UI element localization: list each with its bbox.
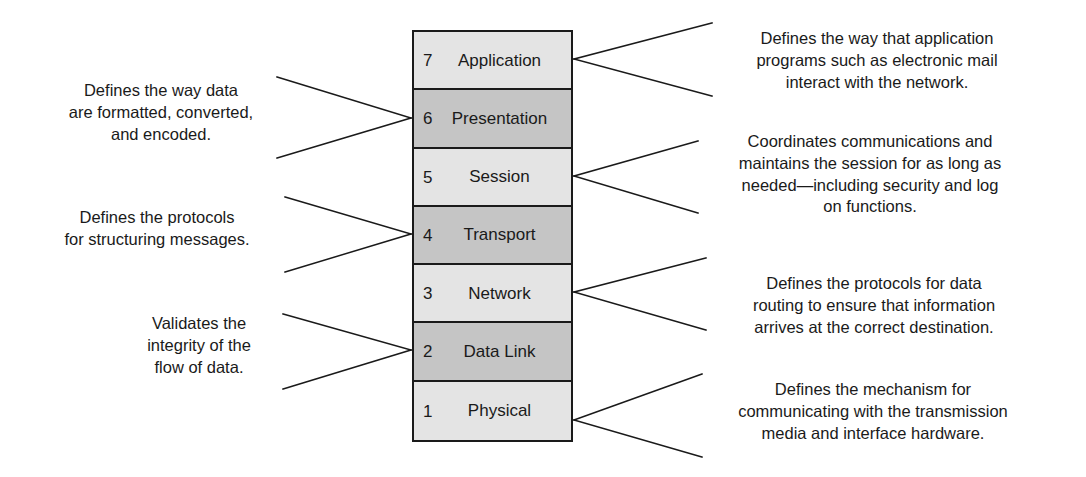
annotation-session: Coordinates communications and maintains… xyxy=(702,131,1038,218)
layer-label-transport: Transport xyxy=(414,226,571,243)
connector-right-application xyxy=(574,23,712,96)
layer-number-7: 7 xyxy=(423,52,432,69)
connector-right-session xyxy=(574,141,698,213)
layer-number-4: 4 xyxy=(423,226,432,243)
connector-right-physical xyxy=(574,374,702,457)
layer-number-1: 1 xyxy=(423,402,432,419)
annotation-transport: Defines the protocols for structuring me… xyxy=(26,207,288,251)
annotation-physical: Defines the mechanism for communicating … xyxy=(706,379,1040,444)
layer-label-application: Application xyxy=(414,52,571,69)
osi-layer-data-link[interactable]: 2 Data Link xyxy=(414,323,571,381)
osi-layer-session[interactable]: 5 Session xyxy=(414,149,571,207)
connector-left-presentation xyxy=(277,77,411,158)
osi-layer-presentation[interactable]: 6 Presentation xyxy=(414,90,571,148)
layer-label-data-link: Data Link xyxy=(414,343,571,360)
osi-layer-physical[interactable]: 1 Physical xyxy=(414,382,571,440)
annotation-presentation: Defines the way data are formatted, conv… xyxy=(36,80,286,145)
layer-number-6: 6 xyxy=(423,110,432,127)
layer-label-network: Network xyxy=(414,285,571,302)
annotation-application: Defines the way that application program… xyxy=(716,28,1038,93)
osi-model-diagram: 7 Application 6 Presentation 5 Session 4… xyxy=(0,0,1086,477)
annotation-data-link: Validates the integrity of the flow of d… xyxy=(110,313,288,378)
layer-label-physical: Physical xyxy=(414,402,571,419)
layer-label-presentation: Presentation xyxy=(414,110,571,127)
connector-right-network xyxy=(574,258,706,330)
annotation-network: Defines the protocols for data routing t… xyxy=(710,273,1038,338)
layer-number-5: 5 xyxy=(423,168,432,185)
osi-layer-application[interactable]: 7 Application xyxy=(414,32,571,90)
osi-layer-transport[interactable]: 4 Transport xyxy=(414,207,571,265)
osi-layer-stack: 7 Application 6 Presentation 5 Session 4… xyxy=(412,30,573,442)
connector-left-transport xyxy=(285,197,411,272)
osi-layer-network[interactable]: 3 Network xyxy=(414,265,571,323)
connector-left-datalink xyxy=(283,314,411,389)
layer-label-session: Session xyxy=(414,168,571,185)
layer-number-2: 2 xyxy=(423,343,432,360)
layer-number-3: 3 xyxy=(423,285,432,302)
